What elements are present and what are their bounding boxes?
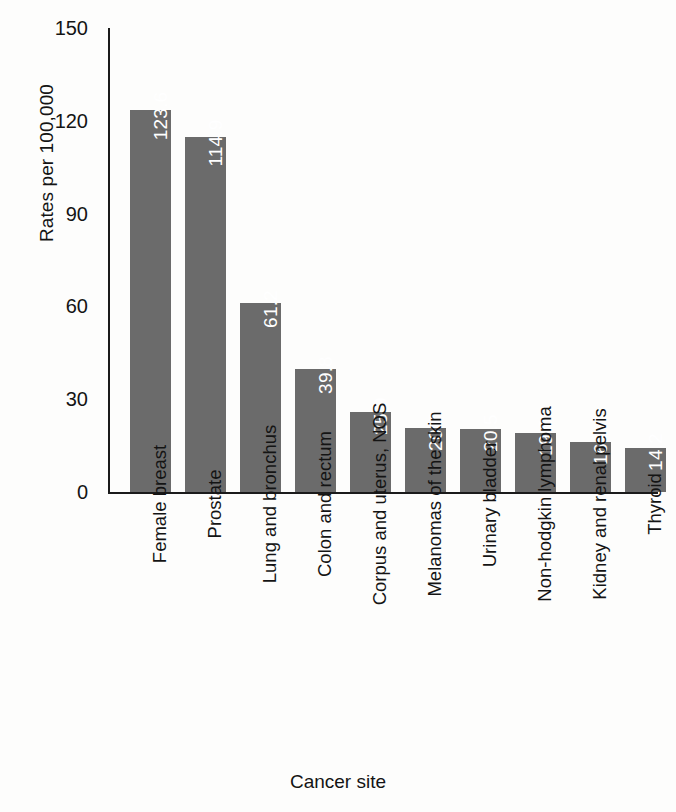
bar-group[interactable]: 114.9 [185,137,226,492]
x-tick-label-text: Colon and rectum [316,431,335,577]
bar-value-label: 61.2 [261,290,280,328]
y-tick-label: 0 [77,482,88,502]
bar-group[interactable]: 123.6 [130,110,171,492]
x-tick-label-text: Urinary bladder [481,441,500,567]
x-tick-label-text: Prostate [206,470,225,539]
bar-chart-figure: Rates per 100,000 0306090120150 123.6114… [0,0,676,812]
x-tick-label-text: Female breast [151,445,170,563]
bar-rect[interactable]: 123.6 [130,110,171,492]
x-tick-label-text: Kidney and renal pelvis [591,408,610,599]
y-tick-label: 120 [55,111,88,131]
x-tick-label-text: Melanomas of the skin [426,411,445,596]
y-tick-label: 90 [66,204,88,224]
x-axis-tick-labels: Female breastProstateLung and bronchusCo… [110,500,658,750]
bar-rect[interactable]: 114.9 [185,137,226,492]
x-tick-label-text: Non-hodgkin lymphoma [536,406,555,601]
y-tick-label: 30 [66,389,88,409]
x-tick-label-text: Corpus and uterus, NOS [371,403,390,606]
bar-value-label: 123.6 [151,91,170,140]
x-axis-title: Cancer site [0,771,676,793]
bar-value-label: 39.8 [316,356,335,394]
y-tick-label: 150 [55,18,88,38]
x-tick-label-text: Lung and bronchus [261,425,280,583]
x-tick-label-text: Thyroid [646,473,665,535]
bar-value-label: 114.9 [206,119,225,166]
bar-value-label: 14.2 [646,433,665,471]
y-tick-label: 60 [66,296,88,316]
y-axis-tick-labels: 0306090120150 [0,0,100,812]
